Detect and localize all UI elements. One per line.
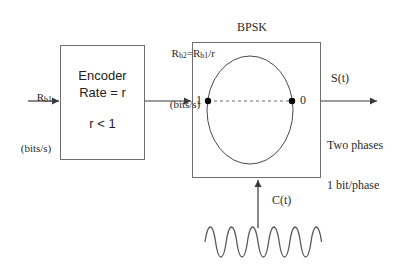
output-note-label: Two phases 1 bit/phase (327, 112, 383, 220)
constellation-label-zero: 0 (300, 94, 306, 107)
coded-rate-label: Rb2=Rb1/r (bits/s) (140, 10, 230, 135)
input-rate-label: Rb1 (bits/s) (8, 54, 64, 179)
output-note-line-2: 1 bit/phase (327, 179, 383, 192)
input-rate-line-1: Rb1 (8, 79, 64, 118)
carrier-signal-label: C(t) (272, 194, 291, 207)
encoder-line-2: Rate = r (61, 85, 144, 100)
coded-rate-line-1: Rb2=Rb1/r (140, 35, 230, 74)
constellation-label-one: 1 (196, 94, 202, 107)
output-note-line-1: Two phases (327, 139, 383, 152)
encoder-line-1: Encoder (61, 68, 144, 83)
bpsk-title-label: BPSK (237, 21, 267, 34)
output-signal-label: S(t) (331, 72, 349, 85)
carrier-waveform (205, 227, 322, 257)
encoder-box[interactable]: Encoder Rate = r r < 1 (60, 45, 145, 160)
encoder-line-3: r < 1 (61, 116, 144, 131)
diagram-canvas: Encoder Rate = r r < 1 Rb1 (bits/s) Rb2=… (0, 0, 404, 271)
input-rate-line-2: (bits/s) (8, 142, 64, 154)
coded-rate-line-2: (bits/s) (140, 98, 230, 110)
